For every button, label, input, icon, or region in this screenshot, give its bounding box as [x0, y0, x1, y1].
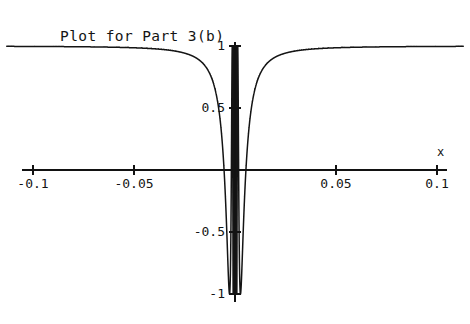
chirp-plot-svg: -0.1-0.050.050.1 -1-0.50.51 Plot for Par…: [0, 0, 470, 324]
page-title: Plot for Part 3(b): [60, 28, 224, 44]
chart-container: -0.1-0.050.050.1 -1-0.50.51 Plot for Par…: [0, 0, 470, 324]
x-axis-label: x: [437, 145, 444, 159]
x-tick-label: -0.1: [17, 176, 48, 191]
x-tick-label: 0.05: [320, 176, 351, 191]
y-tick-label: -0.5: [194, 224, 225, 239]
x-tick-label: -0.05: [114, 176, 153, 191]
y-tick-label: -1: [209, 286, 225, 301]
x-tick-label: 0.1: [425, 176, 448, 191]
y-tick-label: 0.5: [202, 100, 225, 115]
